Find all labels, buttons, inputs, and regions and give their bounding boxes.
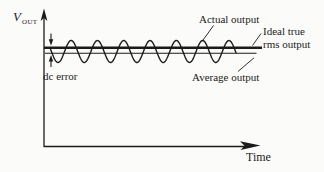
waveform-diagram: VOUT Actual output Ideal true rms output…	[0, 0, 324, 172]
y-axis-symbol: V	[13, 9, 21, 24]
ideal-true-rms-label-line2: rms output	[263, 38, 310, 51]
y-axis-label: VOUT	[13, 11, 37, 26]
actual-output-leader	[202, 26, 214, 42]
average-output-leader	[238, 58, 254, 72]
dc-error-label: dc error	[43, 70, 78, 83]
x-axis-label: Time	[246, 151, 271, 164]
average-output-label: Average output	[192, 71, 259, 84]
ideal-true-rms-label: Ideal true rms output	[263, 25, 310, 50]
actual-output-label: Actual output	[199, 13, 259, 26]
y-axis-subscript: OUT	[22, 18, 38, 26]
ideal-true-rms-leader	[253, 34, 262, 46]
dc-error-down-arrowhead-icon	[49, 39, 53, 46]
actual-output-wave	[50, 41, 236, 63]
x-axis-arrowhead-icon	[240, 141, 261, 150]
ideal-true-rms-label-line1: Ideal true	[263, 25, 310, 38]
